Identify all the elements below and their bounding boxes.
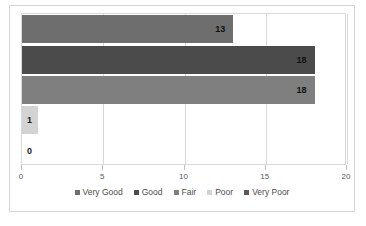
x-tick-mark <box>102 165 103 170</box>
bar-value-label: 13 <box>215 25 225 34</box>
x-tick-label: 15 <box>260 172 269 181</box>
x-tick-label: 0 <box>19 172 23 181</box>
bar-row: 0 <box>22 137 345 165</box>
bar-value-label: 18 <box>297 55 307 64</box>
plot-area: 13181810 <box>21 13 346 165</box>
bar-row: 13 <box>22 15 345 43</box>
bar-series: 13181810 <box>22 14 345 164</box>
legend-label: Good <box>142 188 163 197</box>
legend-label: Very Good <box>83 188 123 197</box>
bar-row: 18 <box>22 76 345 104</box>
legend-swatch-icon <box>75 190 80 195</box>
bar-good[interactable] <box>22 46 315 74</box>
legend-label: Very Poor <box>252 188 289 197</box>
bar-fair[interactable] <box>22 76 315 104</box>
x-tick-mark <box>184 165 185 170</box>
x-tick-label: 5 <box>100 172 104 181</box>
legend-label: Poor <box>215 188 233 197</box>
bar-value-label: 0 <box>27 146 32 155</box>
bar-row: 18 <box>22 46 345 74</box>
legend-item-very-poor[interactable]: Very Poor <box>244 188 289 197</box>
legend-item-fair[interactable]: Fair <box>174 188 197 197</box>
gridline-20 <box>347 14 348 164</box>
legend-swatch-icon <box>134 190 139 195</box>
chart-legend: Very GoodGoodFairPoorVery Poor <box>10 188 354 197</box>
legend-label: Fair <box>182 188 197 197</box>
legend-swatch-icon <box>174 190 179 195</box>
x-tick-mark <box>21 165 22 170</box>
bar-row: 1 <box>22 106 345 134</box>
legend-item-poor[interactable]: Poor <box>207 188 233 197</box>
x-tick-label: 10 <box>179 172 188 181</box>
bar-value-label: 18 <box>297 86 307 95</box>
legend-swatch-icon <box>244 190 249 195</box>
x-tick-label: 20 <box>342 172 351 181</box>
legend-item-very-good[interactable]: Very Good <box>75 188 123 197</box>
x-tick-mark <box>346 165 347 170</box>
chart-container: 13181810 05101520 Very GoodGoodFairPoorV… <box>9 5 355 212</box>
x-tick-mark <box>265 165 266 170</box>
bar-value-label: 1 <box>27 116 32 125</box>
bar-very-good[interactable] <box>22 15 233 43</box>
legend-swatch-icon <box>207 190 212 195</box>
x-axis: 05101520 <box>21 165 346 187</box>
legend-item-good[interactable]: Good <box>134 188 163 197</box>
